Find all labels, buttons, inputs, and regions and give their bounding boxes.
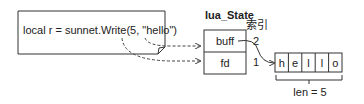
char-cell: l <box>307 57 309 69</box>
code-text: local r = sunnet.Write(5, "hello") <box>23 24 177 36</box>
length-label: len = 5 <box>293 86 326 98</box>
char-cell: h <box>279 57 285 69</box>
code-note-box: local r = sunnet.Write(5, "hello") <box>18 11 177 54</box>
hello-buffer: h e l l o len = 5 <box>275 53 342 98</box>
index-label: 索引 <box>246 18 268 31</box>
length-brace <box>276 75 342 84</box>
lua-state-stack: lua_State 索引 buff fd 2 1 <box>204 9 268 74</box>
slot-index-1: 1 <box>253 56 259 68</box>
char-cell: e <box>292 57 298 69</box>
char-cell: l <box>321 57 323 69</box>
slot-buff: buff <box>216 35 235 47</box>
diagram-canvas: local r = sunnet.Write(5, "hello") lua_S… <box>0 0 364 104</box>
char-cell: o <box>332 57 338 69</box>
slot-fd: fd <box>220 57 229 69</box>
